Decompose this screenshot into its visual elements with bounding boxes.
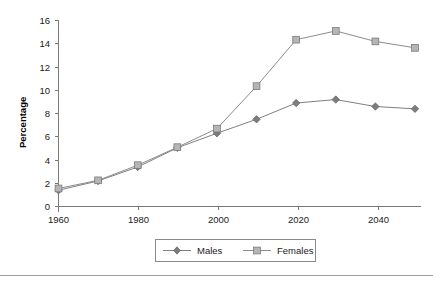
- data-point-females-2050: [412, 44, 419, 51]
- series-line-females: [59, 31, 416, 189]
- legend-label-males: Males: [197, 245, 223, 256]
- x-tick-label: 1960: [48, 214, 69, 225]
- data-point-females-2040: [372, 38, 379, 45]
- chart-figure: Percentage 16 14 12 10 8 6 4 2 0: [0, 0, 433, 282]
- chart-legend: Males Females: [156, 240, 316, 262]
- x-tick-label: 1980: [128, 214, 149, 225]
- y-axis-tick-labels: 16 14 12 10 8 6 4 2 0: [39, 15, 50, 212]
- x-axis-ticks: [59, 207, 379, 212]
- data-point-females-2000: [214, 125, 221, 132]
- series-layer: [55, 28, 419, 194]
- y-tick-label: 14: [39, 38, 50, 49]
- data-point-females-2010: [253, 83, 260, 90]
- series-line-males: [59, 100, 416, 191]
- series-females: [55, 28, 418, 192]
- y-tick-label: 4: [45, 155, 50, 166]
- y-tick-label: 6: [45, 131, 50, 142]
- y-tick-label: 16: [39, 15, 50, 26]
- data-point-females-2030: [332, 28, 339, 35]
- data-point-males-2030: [332, 96, 339, 103]
- data-point-males-2040: [372, 103, 379, 110]
- y-axis-title: Percentage: [17, 97, 28, 148]
- y-tick-label: 2: [45, 178, 50, 189]
- y-tick-label: 10: [39, 85, 50, 96]
- y-axis-ticks: [55, 21, 59, 207]
- data-point-males-2010: [253, 116, 260, 123]
- square-marker-icon: [254, 247, 261, 254]
- y-tick-label: 8: [45, 108, 50, 119]
- x-axis-tick-labels: 1960 1980 2000 2020 2040: [48, 214, 389, 225]
- y-tick-label: 12: [39, 62, 50, 73]
- data-point-females-1970: [95, 177, 102, 184]
- series-males: [55, 96, 419, 194]
- y-tick-label: 0: [45, 201, 50, 212]
- data-point-males-2020: [292, 99, 299, 106]
- x-tick-label: 2000: [208, 214, 229, 225]
- data-point-females-1990: [174, 144, 181, 151]
- legend-label-females: Females: [277, 245, 314, 256]
- data-point-males-2050: [411, 105, 418, 112]
- x-tick-label: 2040: [368, 214, 389, 225]
- data-point-females-2020: [293, 36, 300, 43]
- x-tick-label: 2020: [288, 214, 309, 225]
- data-point-females-1980: [134, 162, 141, 169]
- data-point-females-1960: [55, 185, 62, 192]
- line-chart: Percentage 16 14 12 10 8 6 4 2 0: [0, 0, 433, 282]
